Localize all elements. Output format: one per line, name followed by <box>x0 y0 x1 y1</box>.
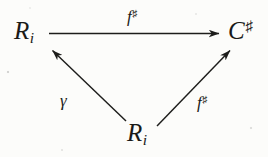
edge-label-left-arrow: γ <box>60 92 67 109</box>
arrow-left-diagonal <box>53 51 127 122</box>
sharp-icon: ♯ <box>202 94 207 105</box>
sharp-icon: ♯ <box>245 18 253 34</box>
node-source-top-base: R <box>14 17 29 44</box>
node-source-bottom-subscript: i <box>143 131 147 148</box>
node-target: C♯ <box>228 18 253 43</box>
edge-label-top-arrow: f♯ <box>127 8 137 25</box>
commutative-diagram: Ri C♯ Ri f♯ γ f♯ <box>0 0 268 157</box>
node-source-bottom-base: R <box>127 119 142 146</box>
node-source-top-subscript: i <box>30 29 34 46</box>
node-source-top: Ri <box>14 18 34 45</box>
node-source-bottom: Ri <box>127 120 147 147</box>
gamma-glyph: γ <box>60 91 67 110</box>
edge-label-right-arrow: f♯ <box>197 94 207 111</box>
node-target-base: C <box>228 17 245 44</box>
arrow-right-diagonal <box>157 51 230 127</box>
sharp-icon: ♯ <box>132 8 137 19</box>
